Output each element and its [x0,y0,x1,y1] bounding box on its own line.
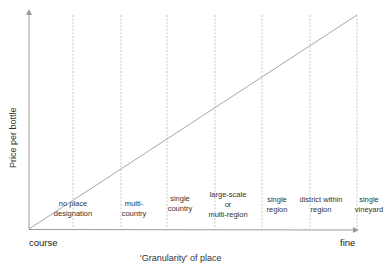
category-label-no-place: no place designation [48,199,98,219]
x-axis-title: 'Granularity' of place [140,253,221,263]
x-axis-end-label: fine [340,237,355,248]
x-axis-arrow-icon [353,227,359,233]
y-axis-title: Price per bottle [8,107,18,168]
category-label-large-scale: large-scale or multi-region [203,190,253,220]
category-label-multi-country: multi- country [114,199,154,219]
x-axis [29,230,354,231]
x-axis-start-label: course [29,237,58,248]
category-label-single-region: single region [262,195,292,215]
y-axis-arrow-icon [26,9,32,15]
category-label-district: district within region [296,195,346,215]
category-label-single-vineyard: single vineyard [350,195,388,215]
diagram-canvas [0,0,388,276]
category-label-single-country: single country [160,194,200,214]
